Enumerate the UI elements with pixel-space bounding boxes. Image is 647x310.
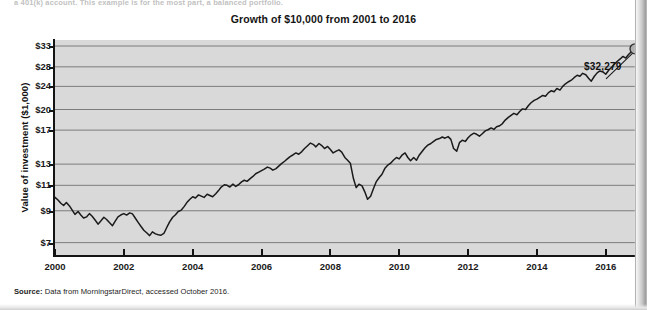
y-axis-tick-mark [49,86,55,88]
y-axis-tick-mark [49,243,55,245]
page-body-text-fragment: a 401(k) account. This example is for th… [14,0,534,9]
x-axis-tick-label: 2008 [305,261,355,272]
y-axis-tick-mark [49,67,55,69]
x-axis-tick-mark [329,249,331,257]
x-axis-tick-mark [261,249,263,257]
y-axis-tick-label: $11 [11,179,51,190]
x-axis-tick-mark [398,249,400,257]
page-edge-line [635,0,636,310]
y-axis-line [53,39,55,257]
y-axis-tick-label: $33 [11,40,51,51]
gridlines [55,46,635,243]
data-series-line [55,49,635,236]
y-axis-tick-label: $7 [11,237,51,248]
chart-title: Growth of $10,000 from 2001 to 2016 [0,13,647,25]
y-axis-tick-label: $9 [11,205,51,216]
source-note-text: Data from MorningstarDirect, accessed Oc… [43,287,230,296]
x-axis-tick-mark [467,249,469,257]
page-bottom-edge [0,304,647,310]
y-axis-tick-label: $28 [11,61,51,72]
plot-area [55,40,635,256]
x-axis-line [53,255,636,257]
y-axis-tick-mark [49,211,55,213]
source-note: Source: Data from MorningstarDirect, acc… [14,287,229,296]
y-axis-tick-label: $24 [11,80,51,91]
y-axis-tick-mark [49,185,55,187]
x-axis-tick-mark [536,249,538,257]
y-axis-tick-mark [49,164,55,166]
x-axis-tick-label: 2004 [168,261,218,272]
x-axis-tick-mark [123,249,125,257]
x-axis-tick-label: 2016 [581,261,631,272]
x-axis-tick-label: 2014 [512,261,562,272]
data-series-group [55,49,635,236]
y-axis-tick-label: $20 [11,104,51,115]
y-axis-tick-label: $13 [11,158,51,169]
y-axis-tick-mark [49,110,55,112]
x-axis-tick-label: 2012 [443,261,493,272]
x-axis-tick-label: 2006 [237,261,287,272]
x-axis-tick-mark [192,249,194,257]
y-axis-tick-label: $17 [11,124,51,135]
x-axis-tick-mark [54,249,56,257]
source-note-label: Source: [14,287,43,296]
x-axis-tick-label: 2010 [374,261,424,272]
end-value-callout: $32,279 [584,61,622,72]
y-axis-tick-mark [49,46,55,48]
x-axis-tick-label: 2002 [99,261,149,272]
x-axis-tick-label: 2000 [30,261,80,272]
y-axis-tick-mark [49,130,55,132]
line-chart-svg [55,40,635,256]
x-axis-tick-mark [605,249,607,257]
